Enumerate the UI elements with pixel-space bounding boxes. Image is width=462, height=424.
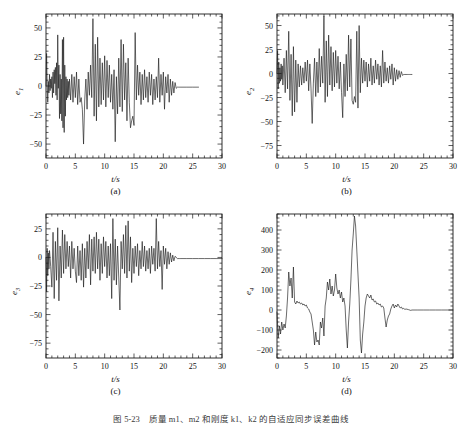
y-axis-label-a-sub: 1 xyxy=(17,88,24,91)
panel-d: 051015202530−200−1000100200300400 e4 t/s… xyxy=(231,200,462,400)
svg-text:10: 10 xyxy=(332,362,340,371)
svg-text:−75: −75 xyxy=(29,339,42,348)
svg-text:−100: −100 xyxy=(256,326,273,335)
figure-caption: 图 5-23 质量 m1、m2 和刚度 k1、k2 的自适应同步误差曲线 xyxy=(0,414,462,424)
svg-text:−25: −25 xyxy=(29,111,42,120)
svg-text:25: 25 xyxy=(189,362,197,371)
svg-text:20: 20 xyxy=(390,362,398,371)
y-axis-label-c-base: e xyxy=(9,291,19,295)
svg-text:15: 15 xyxy=(361,162,369,171)
panel-tag-d: (d) xyxy=(231,386,462,396)
svg-text:5: 5 xyxy=(304,162,308,171)
svg-text:15: 15 xyxy=(130,162,138,171)
figure-container: 051015202530−50−2502550 e1 t/s (a) 05101… xyxy=(0,0,462,424)
svg-text:0: 0 xyxy=(275,162,279,171)
plot-a: 051015202530−50−2502550 xyxy=(0,0,231,200)
y-axis-label-d-base: e xyxy=(243,291,253,295)
svg-text:0: 0 xyxy=(44,362,48,371)
svg-text:0: 0 xyxy=(269,70,273,79)
panel-a: 051015202530−50−2502550 e1 t/s (a) xyxy=(0,0,231,200)
panel-c: 051015202530−75−50−25025 e3 t/s (c) xyxy=(0,200,231,400)
svg-text:20: 20 xyxy=(159,162,167,171)
x-axis-label-b: t/s xyxy=(231,174,462,184)
y-axis-label-b-base: e xyxy=(243,91,253,95)
panel-tag-c: (c) xyxy=(0,386,231,396)
svg-text:0: 0 xyxy=(38,82,42,91)
svg-text:10: 10 xyxy=(101,162,109,171)
y-axis-label-a: e1 xyxy=(12,88,24,95)
panel-tag-a: (a) xyxy=(0,186,231,196)
svg-text:0: 0 xyxy=(269,306,273,315)
y-axis-label-d: e4 xyxy=(243,288,255,295)
svg-text:−50: −50 xyxy=(29,140,42,149)
svg-text:25: 25 xyxy=(34,225,42,234)
svg-text:30: 30 xyxy=(218,362,226,371)
svg-text:400: 400 xyxy=(261,226,273,235)
svg-text:−50: −50 xyxy=(260,118,273,127)
svg-text:15: 15 xyxy=(130,362,138,371)
svg-text:−25: −25 xyxy=(29,282,42,291)
svg-text:15: 15 xyxy=(361,362,369,371)
svg-text:30: 30 xyxy=(449,362,457,371)
y-axis-label-d-sub: 4 xyxy=(248,288,255,291)
svg-text:50: 50 xyxy=(34,24,42,33)
svg-text:20: 20 xyxy=(159,362,167,371)
svg-text:100: 100 xyxy=(261,286,273,295)
svg-text:5: 5 xyxy=(73,162,77,171)
plot-b: 051015202530−75−50−2502550 xyxy=(231,0,462,200)
svg-text:−200: −200 xyxy=(256,346,273,355)
svg-text:−50: −50 xyxy=(29,311,42,320)
panel-tag-b: (b) xyxy=(231,186,462,196)
svg-text:25: 25 xyxy=(189,162,197,171)
svg-text:25: 25 xyxy=(34,53,42,62)
svg-text:0: 0 xyxy=(44,162,48,171)
svg-text:5: 5 xyxy=(304,362,308,371)
y-axis-label-a-base: e xyxy=(12,91,22,95)
panel-b: 051015202530−75−50−2502550 e2 t/s (b) xyxy=(231,0,462,200)
svg-text:10: 10 xyxy=(101,362,109,371)
svg-text:20: 20 xyxy=(390,162,398,171)
plot-c: 051015202530−75−50−25025 xyxy=(0,200,231,400)
svg-text:5: 5 xyxy=(73,362,77,371)
svg-text:−75: −75 xyxy=(260,142,273,151)
svg-text:30: 30 xyxy=(449,162,457,171)
svg-text:300: 300 xyxy=(261,246,273,255)
y-axis-label-c-sub: 3 xyxy=(14,288,21,291)
svg-text:200: 200 xyxy=(261,266,273,275)
plot-d: 051015202530−200−1000100200300400 xyxy=(231,200,462,400)
svg-text:50: 50 xyxy=(265,22,273,31)
svg-text:30: 30 xyxy=(218,162,226,171)
x-axis-label-c: t/s xyxy=(0,374,231,384)
svg-text:25: 25 xyxy=(420,162,428,171)
svg-text:0: 0 xyxy=(38,253,42,262)
svg-text:25: 25 xyxy=(265,46,273,55)
x-axis-label-a: t/s xyxy=(0,174,231,184)
x-axis-label-d: t/s xyxy=(231,374,462,384)
svg-text:−25: −25 xyxy=(260,94,273,103)
y-axis-label-b: e2 xyxy=(243,88,255,95)
y-axis-label-c: e3 xyxy=(9,288,21,295)
svg-text:25: 25 xyxy=(420,362,428,371)
svg-text:10: 10 xyxy=(332,162,340,171)
svg-text:0: 0 xyxy=(275,362,279,371)
y-axis-label-b-sub: 2 xyxy=(248,88,255,91)
